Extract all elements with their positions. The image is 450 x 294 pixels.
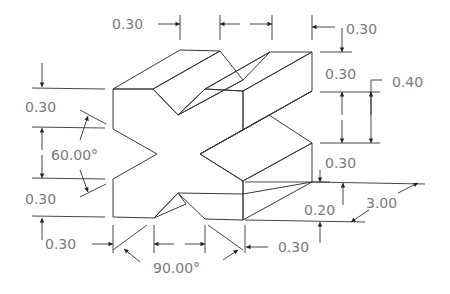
dim-bottom-right: 0.30 (278, 239, 309, 255)
v-block-solid (113, 50, 312, 220)
dim-left-angle: 60.00° (51, 147, 98, 163)
dim-left-top: 0.30 (25, 99, 56, 115)
dim-right-groove: 0.30 (325, 66, 356, 82)
top-face-left (113, 50, 220, 89)
front-face (113, 89, 243, 220)
dim-bottom-left: 0.30 (45, 236, 76, 252)
dim-right-lower: 0.30 (325, 155, 356, 171)
v-block-drawing: 0.30 0.30 0.30 0.40 0.30 0.20 3.00 (0, 0, 450, 294)
right-notch-lower (200, 115, 312, 181)
dim-top-left: 0.30 (112, 16, 143, 32)
dimensions-top: 0.30 0.30 (112, 15, 377, 52)
dim-right-bottom: 0.20 (304, 202, 335, 218)
top-face-right (205, 52, 312, 91)
dim-left-bottom: 0.30 (25, 191, 56, 207)
dim-bottom-angle: 90.00° (153, 260, 200, 276)
dim-top-right: 0.30 (346, 21, 377, 37)
dim-depth: 3.00 (366, 195, 397, 211)
dimensions-left: 0.30 60.00° 0.30 (25, 63, 106, 240)
bottom-groove-edge (178, 182, 312, 194)
right-side-lower (243, 143, 312, 220)
right-side-upper (243, 52, 312, 130)
dimensions-right: 0.30 0.40 0.30 0.20 3.00 (245, 66, 425, 243)
dimensions-bottom: 0.30 90.00° 0.30 (45, 225, 309, 276)
dim-right-overall: 0.40 (392, 74, 423, 90)
top-groove-left-wall (153, 51, 243, 115)
